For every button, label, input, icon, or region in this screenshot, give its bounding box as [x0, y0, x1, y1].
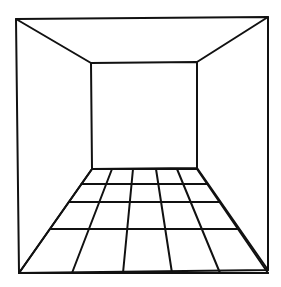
- edge-top-left: [16, 19, 91, 63]
- back-wall-rect: [91, 62, 197, 169]
- back-wall: [91, 62, 197, 169]
- outer-frame-rect: [16, 17, 268, 273]
- outer-frame: [16, 17, 268, 273]
- receding-edges: [16, 17, 268, 273]
- room-perspective-drawing: [0, 0, 281, 287]
- edge-top-right: [197, 17, 268, 62]
- floor-grid: [19, 169, 268, 273]
